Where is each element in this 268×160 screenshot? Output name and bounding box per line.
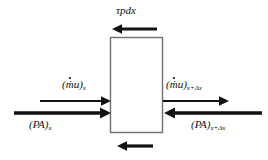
shear-top-body: pdx: [120, 4, 136, 16]
subscript-x-plus-dx: x+Δx: [187, 84, 202, 92]
pressure-area-symbol: PA: [195, 118, 207, 130]
pressure-outflow-arrow: [164, 108, 262, 119]
subscript-x-plus-dx: x+Δx: [210, 124, 225, 132]
momentum-inflow-arrow: [40, 96, 111, 106]
momentum-outflow-arrow: [163, 96, 229, 106]
mass-flow-rate-symbol: ṁ: [170, 79, 178, 90]
shear-stress-top-label: τpdx: [116, 5, 136, 16]
diagram-canvas: [0, 0, 268, 160]
pressure-area-symbol: PA: [33, 118, 45, 130]
mass-flow-rate-symbol: ṁ: [66, 79, 74, 90]
pressure-inflow-label: (PA)x: [29, 119, 51, 132]
control-volume-box: [111, 38, 163, 133]
momentum-inflow-label: (ṁu)x: [62, 79, 86, 92]
pressure-outflow-label: (PA)x+Δx: [191, 119, 225, 132]
subscript-x: x: [83, 84, 86, 92]
shear-stress-bottom-arrow: [117, 141, 153, 151]
shear-stress-top-arrow: [112, 24, 157, 34]
momentum-outflow-label: (ṁu)x+Δx: [166, 79, 202, 92]
control-volume-diagram: τpdx (ṁu)x (ṁu)x+Δx (PA)x (PA)x+Δx: [0, 0, 268, 160]
pressure-inflow-arrow: [14, 108, 111, 119]
subscript-x: x: [48, 124, 51, 132]
